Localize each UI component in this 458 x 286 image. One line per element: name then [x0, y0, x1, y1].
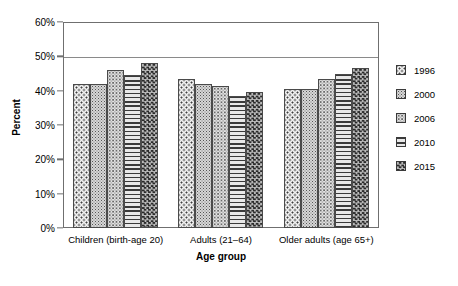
legend-item[interactable]: 2000: [396, 82, 456, 106]
bar-group: [274, 22, 379, 228]
legend-swatch-2015: [396, 161, 406, 171]
bar-groups: [63, 22, 379, 228]
y-axis-tick-label: 60%: [11, 17, 55, 28]
legend-label: 2006: [414, 113, 435, 124]
bar[interactable]: [301, 89, 318, 228]
bar[interactable]: [246, 92, 263, 228]
legend-label: 2000: [414, 89, 435, 100]
legend-swatch-2000: [396, 89, 406, 99]
legend-label: 2015: [414, 161, 435, 172]
bar-group: [168, 22, 273, 228]
legend-label: 2010: [414, 137, 435, 148]
bar[interactable]: [318, 79, 335, 228]
bar[interactable]: [73, 84, 90, 228]
legend-label: 1996: [414, 65, 435, 76]
x-axis-tick-label: Children (birth-age 20): [63, 234, 168, 245]
y-axis-tick-label: 20%: [11, 154, 55, 165]
legend-swatch-2006: [396, 113, 406, 123]
y-axis-tick-label: 0%: [11, 223, 55, 234]
x-axis-tick-label: Adults (21–64): [168, 234, 273, 245]
y-axis-tick-label: 40%: [11, 85, 55, 96]
legend-item[interactable]: 2015: [396, 154, 456, 178]
bar[interactable]: [141, 63, 158, 228]
bar[interactable]: [352, 68, 369, 228]
bar[interactable]: [212, 86, 229, 228]
bar-chart-figure: Percent 0%10%20%30%40%50%60% Children (b…: [0, 0, 458, 286]
bar[interactable]: [107, 70, 124, 228]
bar[interactable]: [195, 84, 212, 228]
bar[interactable]: [335, 74, 352, 229]
y-axis-tick-label: 30%: [11, 120, 55, 131]
bar[interactable]: [178, 79, 195, 228]
y-axis-tick-label: 10%: [11, 188, 55, 199]
legend-swatch-1996: [396, 65, 406, 75]
legend-item[interactable]: 2010: [396, 130, 456, 154]
legend-item[interactable]: 1996: [396, 58, 456, 82]
y-axis-tick-label: 50%: [11, 51, 55, 62]
legend: 19962000200620102015: [396, 58, 456, 178]
bar-group: [63, 22, 168, 228]
x-axis-title: Age group: [63, 251, 379, 262]
x-axis-tick-label: Older adults (age 65+): [274, 234, 379, 245]
bar[interactable]: [229, 96, 246, 228]
bar[interactable]: [124, 75, 141, 228]
legend-item[interactable]: 2006: [396, 106, 456, 130]
legend-swatch-2010: [396, 137, 406, 147]
bar[interactable]: [284, 89, 301, 228]
bar[interactable]: [90, 84, 107, 228]
